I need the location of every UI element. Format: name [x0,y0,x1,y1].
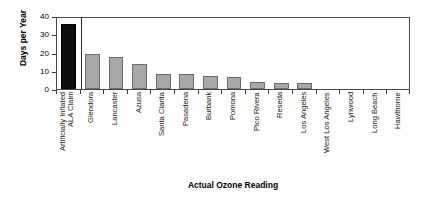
x-category-label: Azusa [135,92,143,174]
x-category-label: Long Beach [371,92,379,174]
y-tick-label: 30 [29,31,49,39]
y-tick-label: 0 [29,86,49,94]
bar [179,74,194,90]
plot-area [56,17,410,90]
x-category-label: Lancaster [111,92,119,174]
bar [274,83,289,89]
x-category-label: Lynwood [347,92,355,174]
x-category-label: Los Angeles [300,92,308,174]
x-category-label: Reseda [276,92,284,174]
y-tick-label: 40 [29,13,49,21]
bar [156,74,171,90]
ozone-bar-chart-figure: Days per Year 010203040 Artificially Inf… [0,0,435,203]
y-tick-label: 10 [29,68,49,76]
x-category-label: Artificially Inflated ALA Claim [59,92,77,174]
y-axis-title: Days per Year [18,0,28,83]
bar [297,83,312,89]
bar [250,82,265,89]
x-category-label: Santa Clarita [158,92,166,174]
bar [227,77,242,89]
x-category-label: Glendora [87,92,95,174]
y-axis-tick-labels: 010203040 [29,0,49,203]
x-axis-title: Actual Ozone Reading [56,180,410,190]
bar [61,24,76,89]
x-category-label: Pico Rivera [253,92,261,174]
y-tick-label: 20 [29,50,49,58]
bar [109,57,124,89]
x-category-label: Burbank [205,92,213,174]
bar [132,64,147,89]
bar [203,76,218,89]
x-category-label: Pomona [229,92,237,174]
x-axis-category-labels: Artificially Inflated ALA ClaimGlendoraL… [56,92,410,174]
x-category-label: Hawthorne [394,92,402,174]
x-category-label: West Los Angeles [323,92,331,174]
claim-separator-line [81,18,82,89]
bar [85,54,100,89]
x-category-label: Pasadena [182,92,190,174]
